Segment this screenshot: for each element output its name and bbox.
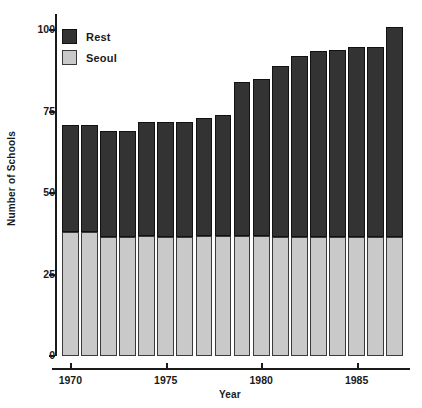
bar-1986 <box>367 47 384 356</box>
bar-segment-rest <box>196 118 213 235</box>
bar-segment-seoul <box>215 236 232 357</box>
bar-1979 <box>234 82 251 356</box>
x-axis-tick-label: 1975 <box>136 374 196 386</box>
legend-item-rest: Rest <box>62 26 117 47</box>
bar-segment-rest <box>253 79 270 235</box>
stacked-bar-chart: Number of Schools 0255075100 19701975198… <box>0 0 422 408</box>
bar-segment-rest <box>348 47 365 238</box>
bar-segment-seoul <box>176 237 193 356</box>
x-axis-tick-label: 1970 <box>40 374 100 386</box>
bar-segment-rest <box>386 27 403 237</box>
bar-segment-rest <box>234 82 251 235</box>
bar-segment-seoul <box>157 237 174 356</box>
bar-segment-seoul <box>234 236 251 357</box>
bar-segment-rest <box>329 50 346 237</box>
bar-segment-rest <box>138 122 155 236</box>
legend-swatch-dark <box>62 29 77 44</box>
bar-segment-seoul <box>138 236 155 357</box>
bar-1974 <box>138 122 155 357</box>
bar-1970 <box>62 125 79 356</box>
legend-swatch-gray <box>62 50 77 65</box>
x-axis-tick-mark <box>166 363 168 369</box>
bar-segment-rest <box>176 122 193 238</box>
bar-segment-seoul <box>310 237 327 356</box>
chart-legend: RestSeoul <box>62 26 117 68</box>
bar-1976 <box>176 122 193 357</box>
bar-1972 <box>100 131 117 356</box>
bar-1980 <box>253 79 270 356</box>
bar-segment-seoul <box>329 237 346 356</box>
bar-segment-seoul <box>196 236 213 357</box>
bar-1981 <box>272 66 289 356</box>
bar-segment-rest <box>291 56 308 237</box>
y-axis-tick-label: 25 <box>9 268 55 280</box>
bar-segment-rest <box>215 115 232 236</box>
bar-segment-seoul <box>367 237 384 356</box>
bar-segment-rest <box>119 131 136 237</box>
bar-1973 <box>119 131 136 356</box>
bar-segment-seoul <box>62 232 79 356</box>
bar-segment-rest <box>100 131 117 237</box>
y-axis-tick-label: 0 <box>9 349 55 361</box>
bar-segment-rest <box>272 66 289 237</box>
bar-segment-rest <box>81 125 98 232</box>
x-axis-tick-label: 1985 <box>327 374 387 386</box>
y-axis-title-text: Number of Schools <box>7 130 18 225</box>
bar-segment-seoul <box>119 237 136 356</box>
bar-segment-seoul <box>100 237 117 356</box>
bar-segment-rest <box>62 125 79 232</box>
bar-segment-seoul <box>386 237 403 356</box>
x-axis-tick-label: 1980 <box>231 374 291 386</box>
bar-1978 <box>215 115 232 356</box>
y-axis-tick-label: 75 <box>9 105 55 117</box>
x-axis-tick-mark <box>261 363 263 369</box>
bar-segment-rest <box>157 122 174 238</box>
bar-1975 <box>157 122 174 357</box>
y-axis-title: Number of Schools <box>2 0 22 356</box>
bar-1983 <box>310 51 327 356</box>
bar-segment-seoul <box>348 237 365 356</box>
y-axis-tick-label: 100 <box>9 23 55 35</box>
bar-1985 <box>348 47 365 356</box>
bar-segment-rest <box>367 47 384 238</box>
x-axis-tick-mark <box>70 363 72 369</box>
bar-1977 <box>196 118 213 356</box>
bar-1987 <box>386 27 403 356</box>
bar-1982 <box>291 56 308 356</box>
bar-segment-rest <box>310 51 327 237</box>
bar-segment-seoul <box>272 237 289 356</box>
bar-1971 <box>81 125 98 356</box>
bar-segment-seoul <box>81 232 98 356</box>
legend-label: Seoul <box>86 52 117 64</box>
legend-item-seoul: Seoul <box>62 47 117 68</box>
legend-label: Rest <box>86 31 111 43</box>
bar-segment-seoul <box>253 236 270 357</box>
y-axis-tick-label: 50 <box>9 186 55 198</box>
bar-segment-seoul <box>291 237 308 356</box>
x-axis-tick-mark <box>357 363 359 369</box>
bar-1984 <box>329 50 346 356</box>
x-axis-title: Year <box>50 389 410 400</box>
